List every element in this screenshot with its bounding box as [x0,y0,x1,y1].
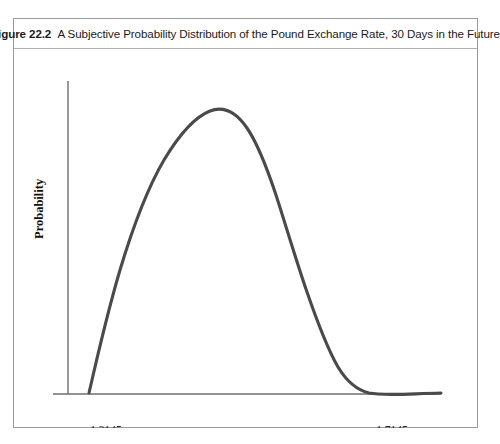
figure-caption-text: A Subjective Probability Distribution of… [57,27,499,40]
figure-frame: Figure 22.2 A Subjective Probability Dis… [13,18,478,428]
y-axis-title: Probability [32,179,47,239]
plot-area: Probability 1.3145 1.7145 Dollars per po… [14,49,477,428]
figure-caption: Figure 22.2 A Subjective Probability Dis… [0,27,500,40]
x-tick-label-left: 1.3145 [76,424,136,428]
figure-caption-band: Figure 22.2 A Subjective Probability Dis… [14,19,477,49]
probability-distribution-chart [14,49,477,428]
probability-density-curve [89,109,441,394]
figure-number-label: Figure 22.2 [0,27,51,40]
x-tick-label-right: 1.7145 [362,424,422,428]
